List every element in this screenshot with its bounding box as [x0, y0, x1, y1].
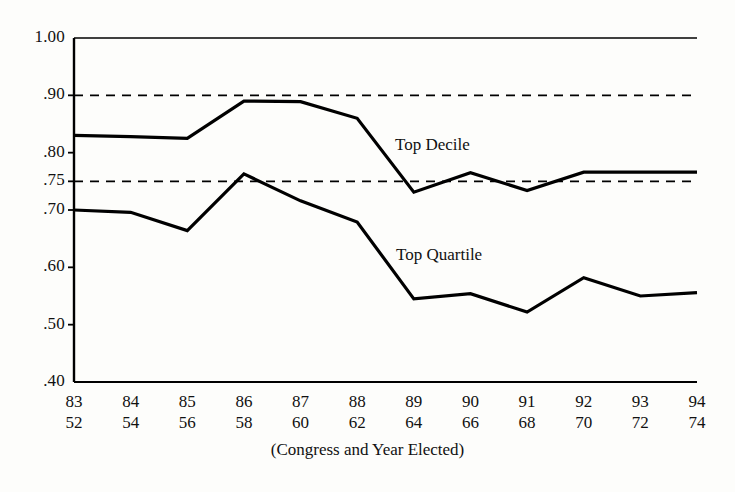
x-tick-congress: 87 [275, 391, 327, 412]
x-tick-year: 68 [501, 412, 553, 433]
x-tick-label-group: 8658 [218, 391, 270, 433]
x-tick-year: 62 [331, 412, 383, 433]
x-tick-congress: 91 [501, 391, 553, 412]
series-label-top-quartile: Top Quartile [396, 245, 482, 265]
x-tick-label-group: 8352 [48, 391, 100, 433]
x-tick-congress: 88 [331, 391, 383, 412]
y-tick-label: .50 [43, 314, 65, 334]
y-tick-label: 1.00 [34, 27, 65, 47]
series-line-top-decile [74, 101, 697, 192]
x-tick-year: 66 [444, 412, 496, 433]
x-tick-label-group: 8760 [275, 391, 327, 433]
x-tick-year: 70 [558, 412, 610, 433]
x-tick-label-group: 8454 [105, 391, 157, 433]
x-tick-year: 58 [218, 412, 270, 433]
y-tick-label: .75 [43, 170, 65, 190]
x-tick-congress: 90 [444, 391, 496, 412]
x-tick-year: 64 [388, 412, 440, 433]
x-tick-label-group: 8964 [388, 391, 440, 433]
y-tick-label: .60 [43, 256, 65, 276]
x-tick-year: 54 [105, 412, 157, 433]
x-tick-label-group: 9372 [614, 391, 666, 433]
x-tick-label-group: 9168 [501, 391, 553, 433]
x-tick-congress: 86 [218, 391, 270, 412]
series-lines [74, 101, 697, 312]
axis-lines [74, 38, 697, 382]
x-axis-title: (Congress and Year Elected) [0, 440, 735, 460]
x-tick-year: 74 [671, 412, 723, 433]
x-tick-congress: 93 [614, 391, 666, 412]
y-tick-label: .90 [43, 84, 65, 104]
x-tick-label-group: 9270 [558, 391, 610, 433]
y-tick-label: .70 [43, 199, 65, 219]
x-tick-congress: 84 [105, 391, 157, 412]
x-tick-year: 60 [275, 412, 327, 433]
x-tick-label-group: 8862 [331, 391, 383, 433]
y-tick-label: .80 [43, 142, 65, 162]
x-tick-congress: 83 [48, 391, 100, 412]
chart-figure: 1.00.90.80.75.70.60.50.40 83528454855686… [0, 0, 735, 492]
x-tick-congress: 94 [671, 391, 723, 412]
x-tick-congress: 89 [388, 391, 440, 412]
x-tick-year: 52 [48, 412, 100, 433]
series-label-top-decile: Top Decile [395, 135, 470, 155]
series-line-top-quartile [74, 174, 697, 312]
x-tick-year: 56 [161, 412, 213, 433]
x-tick-label-group: 9474 [671, 391, 723, 433]
x-tick-congress: 92 [558, 391, 610, 412]
x-tick-label-group: 8556 [161, 391, 213, 433]
x-tick-label-group: 9066 [444, 391, 496, 433]
x-tick-year: 72 [614, 412, 666, 433]
y-tick-label: .40 [43, 371, 65, 391]
x-tick-congress: 85 [161, 391, 213, 412]
